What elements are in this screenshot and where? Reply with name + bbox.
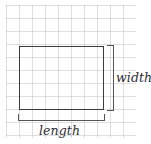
geometry-figure: width length	[0, 0, 151, 144]
width-label: width	[116, 70, 151, 85]
rectangle-shape	[19, 46, 104, 110]
length-bracket-icon	[18, 114, 105, 121]
length-label: length	[39, 123, 80, 138]
width-bracket-icon	[107, 45, 114, 111]
